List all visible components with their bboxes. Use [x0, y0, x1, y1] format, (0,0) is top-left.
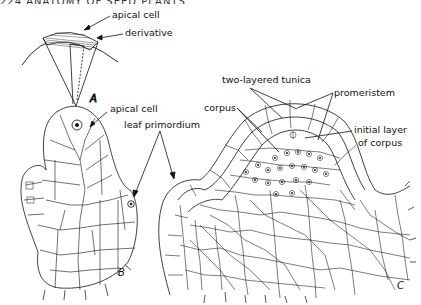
- label-derivative: derivative: [125, 27, 173, 38]
- panel-label-a: A: [89, 93, 97, 104]
- arrow-initial-layer: [305, 131, 352, 138]
- label-apical-cell-b: apical cell: [110, 103, 158, 114]
- figure-shoot-apex: A apical cell derivative: [0, 0, 421, 305]
- label-initial-layer: initial layer: [354, 124, 407, 135]
- label-apical-cell-a: apical cell: [112, 9, 160, 20]
- label-leaf-primordium: leaf primordium: [124, 119, 200, 130]
- panel-a-diagram: [22, 32, 118, 106]
- arrow-leaf-primordium-c: [160, 131, 173, 176]
- arrow-corpus-2: [237, 108, 279, 152]
- label-of-corpus: of corpus: [358, 137, 402, 148]
- arrow-promeristem-1: [297, 93, 333, 108]
- panel-label-c: C: [397, 280, 404, 291]
- arrow-derivative: [100, 34, 123, 38]
- arrow-promeristem-2: [318, 93, 333, 140]
- label-promeristem: promeristem: [334, 87, 395, 98]
- label-corpus: corpus: [204, 102, 236, 113]
- label-two-layered-tunica: two-layered tunica: [222, 74, 311, 85]
- panel-label-b: B: [118, 267, 125, 278]
- arrow-leaf-primordium-b: [135, 131, 160, 194]
